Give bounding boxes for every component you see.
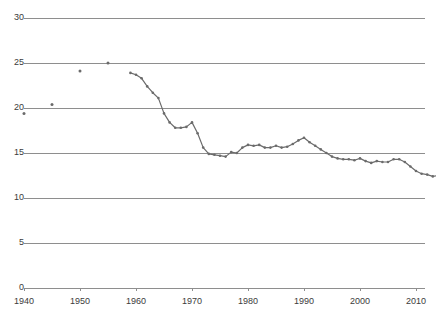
data-point — [146, 85, 149, 88]
data-point — [140, 77, 143, 80]
data-point — [280, 146, 283, 149]
data-point — [286, 145, 289, 148]
data-point — [230, 151, 233, 154]
data-point — [404, 161, 407, 164]
data-series-group — [23, 62, 436, 178]
data-point — [107, 62, 110, 65]
data-point — [308, 141, 311, 144]
data-point — [359, 157, 362, 160]
data-point — [336, 157, 339, 160]
data-point — [185, 126, 188, 129]
data-point — [325, 152, 328, 155]
data-point — [224, 155, 227, 158]
data-point — [51, 103, 54, 106]
series-early-sparse-points — [23, 62, 110, 115]
data-point — [247, 144, 250, 147]
data-point — [387, 161, 390, 164]
data-point — [420, 172, 423, 175]
data-point — [331, 155, 334, 158]
data-point — [241, 146, 244, 149]
data-point — [79, 70, 82, 73]
data-point — [213, 154, 216, 157]
data-point — [157, 97, 160, 100]
data-point — [135, 73, 138, 76]
data-point — [364, 160, 367, 163]
data-point — [297, 139, 300, 142]
data-point — [426, 173, 429, 176]
data-point — [415, 170, 418, 173]
data-point — [23, 112, 26, 115]
data-point — [314, 145, 317, 148]
data-point — [180, 127, 183, 130]
data-point — [275, 145, 278, 148]
data-point — [353, 159, 356, 162]
series-line — [130, 73, 436, 176]
data-point — [348, 158, 351, 161]
data-point — [252, 145, 255, 148]
data-point — [236, 152, 239, 155]
data-point — [269, 146, 272, 149]
data-point — [370, 162, 373, 165]
data-point — [174, 127, 177, 130]
data-point — [202, 146, 205, 149]
data-point — [303, 136, 306, 139]
data-point — [342, 158, 345, 161]
data-point — [381, 161, 384, 164]
data-point — [258, 144, 261, 147]
data-point — [219, 154, 222, 157]
data-point — [191, 121, 194, 124]
data-point — [152, 91, 155, 94]
data-point — [409, 165, 412, 168]
data-point — [292, 143, 295, 146]
data-point — [392, 158, 395, 161]
data-point — [208, 153, 211, 156]
data-point — [168, 121, 171, 124]
data-point — [376, 160, 379, 163]
data-point — [163, 112, 166, 115]
data-point — [432, 175, 435, 178]
data-point — [196, 132, 199, 135]
data-point — [320, 148, 323, 151]
data-point — [398, 158, 401, 161]
series-annual-series — [129, 72, 436, 178]
data-point — [129, 72, 132, 75]
data-point — [264, 146, 267, 149]
